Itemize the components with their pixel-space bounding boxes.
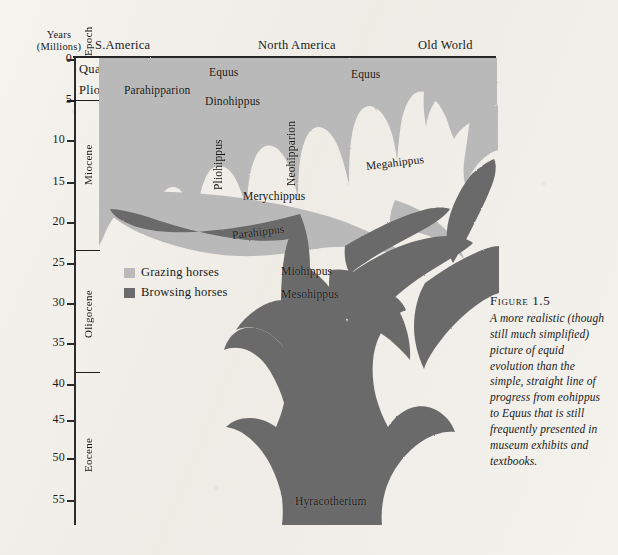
legend-swatch-browsing-icon [124,288,135,298]
phylogeny-tree [0,0,618,555]
figure-1-5: Years (Millions) Epoch S.America North A… [0,0,618,555]
taxon-label-equus-north-america: Equus [209,66,239,78]
taxon-label-parahipparion: Parahipparion [124,84,190,96]
figure-caption-heading: Figure 1.5 [490,292,610,310]
taxon-label-merychippus: Merychippus [243,190,305,202]
legend-swatch-grazing-icon [124,268,135,278]
taxon-label-hyracotherium: Hyracotherium [295,495,367,507]
taxon-label-dinohippus: Dinohippus [205,95,260,107]
legend: Grazing horses Browsing horses [124,265,228,305]
legend-label-browsing: Browsing horses [141,285,228,300]
taxon-label-mesohippus: Mesohippus [281,288,339,300]
legend-item-grazing: Grazing horses [124,265,228,280]
figure-caption: Figure 1.5 A more realistic (though stil… [490,292,610,470]
taxon-label-pliohippus: Pliohippus [212,134,224,190]
taxon-label-equus-old-world: Equus [351,68,381,80]
figure-caption-body: A more realistic (though still much simp… [490,311,610,470]
legend-label-grazing: Grazing horses [141,265,219,280]
legend-item-browsing: Browsing horses [124,285,228,300]
taxon-label-miohippus: Miohippus [281,265,332,277]
taxon-label-neohipparion: Neohipparion [285,120,297,186]
